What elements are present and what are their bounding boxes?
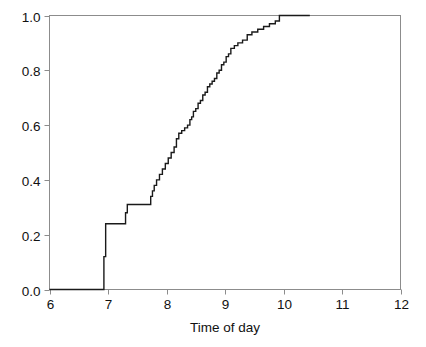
- y-tick-label: 0.0: [22, 284, 41, 299]
- x-tick-label: 10: [277, 297, 292, 312]
- x-tick-label: 12: [394, 297, 409, 312]
- chart-figure: 0.00.20.40.60.81.0 6789101112 Time of da…: [0, 0, 426, 347]
- plot-frame: [50, 16, 401, 290]
- y-axis-ticks: 0.00.20.40.60.81.0: [22, 10, 50, 299]
- x-tick-label: 8: [164, 297, 172, 312]
- y-tick-label: 0.8: [22, 64, 41, 79]
- x-tick-label: 9: [222, 297, 230, 312]
- y-tick-label: 0.2: [22, 229, 41, 244]
- y-tick-label: 0.4: [22, 174, 41, 189]
- x-tick-label: 7: [105, 297, 113, 312]
- x-tick-label: 6: [47, 297, 55, 312]
- y-tick-label: 0.6: [22, 119, 41, 134]
- plot-border: [50, 16, 401, 290]
- x-tick-label: 11: [335, 297, 349, 312]
- cdf-plot-svg: 0.00.20.40.60.81.0 6789101112 Time of da…: [0, 0, 426, 347]
- x-axis-title: Time of day: [190, 320, 260, 335]
- y-tick-label: 1.0: [22, 10, 41, 25]
- x-axis-ticks: 6789101112: [47, 290, 409, 312]
- cdf-step-line: [50, 16, 310, 290]
